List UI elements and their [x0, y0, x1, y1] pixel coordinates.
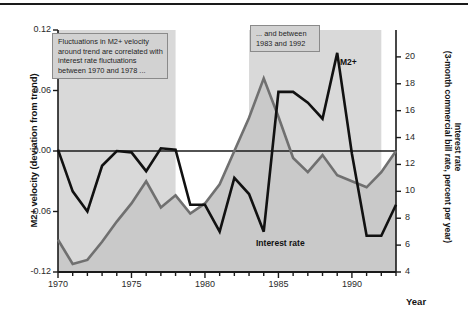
y-tick-label-left: -0.06 — [0, 206, 51, 216]
annotation-box-1970-1978: Fluctuations in M2+ velocity around tren… — [52, 33, 168, 79]
y-tick-label-right: 4 — [405, 266, 410, 276]
y-axis-right-title: Interest rate (3-month commercial bill r… — [443, 42, 463, 252]
x-tick-label: 1990 — [322, 279, 382, 289]
y-tick-label-left: 0.06 — [0, 85, 51, 95]
x-axis-title: Year — [406, 296, 426, 307]
series-label-m2: M2+ — [340, 57, 357, 67]
annotation-box-1983-1992: ... and between 1983 and 1992 — [250, 25, 320, 52]
y-tick-label-left: 0.12 — [0, 24, 51, 34]
y-tick-label-right: 20 — [405, 51, 415, 61]
series-label-interest-rate: Interest rate — [256, 238, 305, 248]
y-tick-label-left: 0.00 — [0, 145, 51, 155]
x-tick-label: 1975 — [101, 279, 161, 289]
y-tick-label-right: 18 — [405, 78, 415, 88]
x-tick-label: 1985 — [248, 279, 308, 289]
y-tick-label-right: 16 — [405, 105, 415, 115]
chart-figure: M2+ velocity (deviation from trend) Inte… — [0, 0, 468, 318]
y-tick-label-right: 10 — [405, 185, 415, 195]
y-axis-right-title-line1: Interest rate — [453, 123, 463, 172]
x-tick-label: 1970 — [28, 279, 88, 289]
y-axis-right-title-line2: (3-month commercial bill rate, percent p… — [443, 42, 453, 252]
y-tick-label-right: 8 — [405, 212, 410, 222]
y-tick-label-right: 14 — [405, 132, 415, 142]
y-tick-label-right: 12 — [405, 158, 415, 168]
y-tick-label-right: 6 — [405, 239, 410, 249]
y-tick-label-left: -0.12 — [0, 266, 51, 276]
x-tick-label: 1980 — [175, 279, 235, 289]
